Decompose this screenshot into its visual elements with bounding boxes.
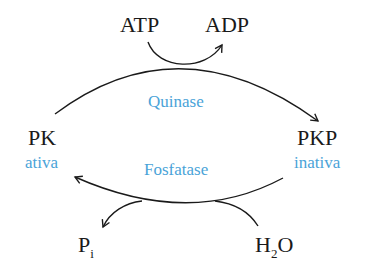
h2o-o: O [277,232,293,257]
atp-label: ATP [120,14,159,36]
atp-adp-arrow [148,42,222,64]
phosphatase-arrow [75,177,283,203]
kinase-label: Quinase [148,93,204,110]
pkp-state-label: inativa [294,154,340,171]
adp-label: ADP [205,14,249,36]
h2o-label: H2O [255,234,293,256]
pi-main: P [78,232,90,257]
h2o-h: H [255,232,271,257]
pi-subscript: i [90,246,94,261]
h2o-subscript: 2 [271,246,278,261]
h2o-in-arrow [215,201,258,226]
pk-state-label: ativa [25,154,58,171]
phosphorylation-cycle-diagram: ATP ADP Quinase PK ativa PKP inativa Fos… [0,0,370,276]
pkp-label: PKP [297,127,337,149]
pk-label: PK [28,127,56,149]
phosphatase-label: Fosfatase [144,161,208,178]
pi-out-arrow [103,201,142,227]
pi-label: Pi [78,234,94,256]
